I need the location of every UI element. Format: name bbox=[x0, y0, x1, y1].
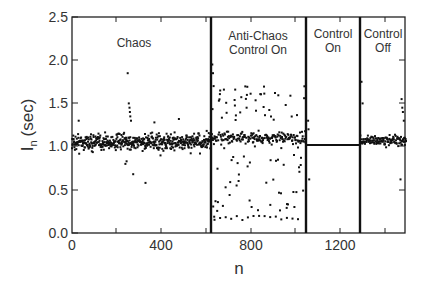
x-axis-title: n bbox=[234, 259, 243, 278]
region-label-anti-chaos-1: Anti-Chaos bbox=[228, 29, 287, 43]
y-tick-3: 1.5 bbox=[49, 95, 69, 111]
y-tick-5: 2.5 bbox=[49, 9, 69, 25]
y-tick-2: 1.0 bbox=[49, 138, 69, 154]
y-tick-4: 2.0 bbox=[49, 52, 69, 68]
region-label-control-off-1: Control bbox=[364, 27, 403, 41]
scatter-chart: 0.0 0.5 1.0 1.5 2.0 2.5 0 400 800 1200 n… bbox=[0, 0, 425, 285]
y-tick-1: 0.5 bbox=[49, 182, 69, 198]
region-label-chaos: Chaos bbox=[117, 36, 152, 50]
region-label-control-on-2: On bbox=[325, 41, 341, 55]
x-tick-2: 800 bbox=[239, 237, 263, 253]
x-tick-3: 1200 bbox=[324, 237, 355, 253]
data-points bbox=[71, 64, 407, 222]
y-title-unit: (sec) bbox=[18, 99, 37, 137]
x-tick-1: 400 bbox=[149, 237, 173, 253]
x-tick-0: 0 bbox=[68, 237, 76, 253]
region-label-control-off-2: Off bbox=[375, 41, 391, 55]
y-tick-labels: 0.0 0.5 1.0 1.5 2.0 2.5 bbox=[49, 9, 69, 241]
y-tick-0: 0.0 bbox=[49, 225, 69, 241]
x-tick-labels: 0 400 800 1200 bbox=[68, 237, 356, 253]
svg-text:In(sec): In(sec) bbox=[18, 99, 39, 152]
y-title-sub: n bbox=[27, 140, 39, 146]
region-label-control-on-1: Control bbox=[314, 27, 353, 41]
region-label-anti-chaos-2: Control On bbox=[229, 43, 287, 57]
y-axis-title: In(sec) bbox=[18, 99, 39, 152]
